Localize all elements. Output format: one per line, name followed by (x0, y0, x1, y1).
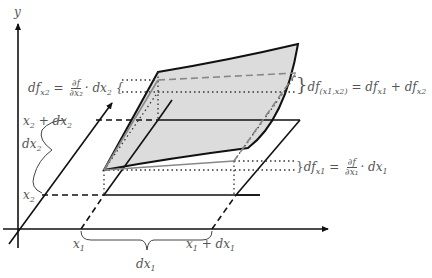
df-x2-formula: dfx2 = ∂f∂x₂· dx2 { (28, 79, 123, 98)
df-total-formula: }df(x1,x2) = dfx1 + dfx2 (296, 76, 426, 96)
x1dx1-dashed-rise (212, 195, 236, 229)
y-axis-label: y (14, 6, 21, 18)
dx2-label: dx2 (22, 138, 42, 153)
x2-label: x2 (23, 189, 35, 204)
x2-plus-dx2-label: x2 + dx2 (23, 115, 72, 130)
df-x1-formula: }dfx1 = ∂f∂x₁· dx1 (296, 158, 388, 177)
x1-plus-dx1-label: x1 + dx1 (186, 238, 235, 253)
dx1-label: dx1 (136, 258, 156, 273)
diagram-canvas: y x1 x1 + dx1 dx1 x2 x2 + dx2 dx2 dfx2 =… (0, 0, 432, 278)
x1-dashed-rise (81, 195, 104, 229)
x1-label: x1 (73, 238, 85, 253)
dx2-brace (33, 120, 66, 193)
surface-patch (104, 44, 298, 170)
